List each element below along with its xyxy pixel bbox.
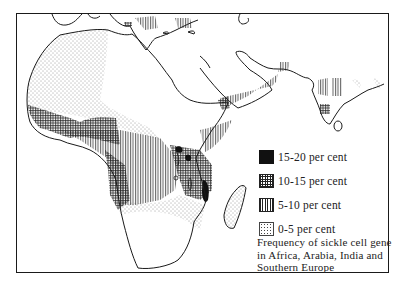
solid-black-swatch-icon: [259, 150, 274, 164]
caption-line: Southern Europe: [257, 261, 392, 274]
legend-item-5-10: 5-10 per cent: [259, 193, 347, 217]
crosshatch-swatch-icon: [259, 174, 274, 188]
legend-label: 5-10 per cent: [278, 199, 341, 211]
legend-item-15-20: 15-20 per cent: [259, 145, 347, 169]
legend-label: 0-5 per cent: [278, 223, 335, 235]
caption-line: in Africa, Arabia, India and: [257, 249, 392, 262]
legend-label: 10-15 per cent: [278, 175, 347, 187]
caption-line: Frequency of sickle cell gene: [257, 236, 392, 249]
legend-item-10-15: 10-15 per cent: [259, 169, 347, 193]
stipple-swatch-icon: [259, 222, 274, 236]
legend-label: 15-20 per cent: [278, 151, 347, 163]
map-caption: Frequency of sickle cell gene in Africa,…: [257, 236, 392, 274]
legend: 15-20 per cent 10-15 per cent 5-10 per c…: [259, 145, 347, 241]
vertical-lines-swatch-icon: [259, 198, 274, 212]
